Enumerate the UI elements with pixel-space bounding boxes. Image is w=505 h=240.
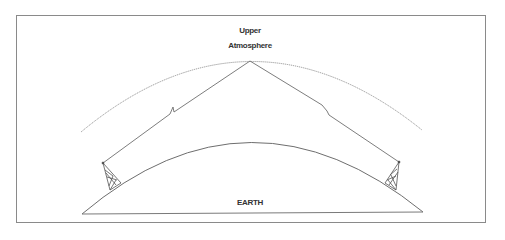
signal-path-up bbox=[103, 61, 250, 163]
earth-label: EARTH bbox=[220, 198, 280, 208]
earth-baseline bbox=[82, 212, 423, 214]
upper-atmosphere-label-line1: Upper bbox=[200, 23, 300, 38]
antenna-tower-left-icon bbox=[102, 162, 121, 190]
signal-path-down bbox=[250, 61, 399, 162]
upper-atmosphere-label-line2: Atmosphere bbox=[200, 38, 300, 53]
upper-atmosphere-arc bbox=[81, 61, 422, 132]
upper-atmosphere-label: Upper Atmosphere bbox=[200, 23, 300, 53]
